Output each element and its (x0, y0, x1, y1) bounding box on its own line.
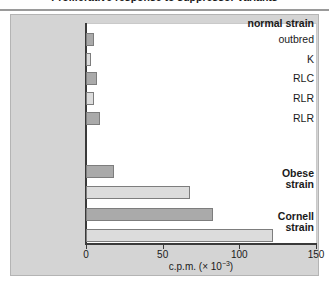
category-label: RLR (293, 113, 314, 124)
category-label: RLC (293, 73, 314, 84)
group-label-normal-strain: normal strain (247, 18, 314, 29)
bar (86, 72, 97, 85)
x-axis-label-close: ) (230, 261, 233, 272)
bar (86, 112, 100, 125)
x-axis-label-main: c.p.m. ( (169, 261, 202, 272)
bar (86, 165, 114, 178)
x-axis-label-mult: × 10 (202, 261, 222, 272)
title-divider (0, 9, 329, 11)
x-tick-label: 150 (296, 249, 329, 260)
group-label-obese-strain-line2: strain (285, 179, 314, 190)
x-tick-label: 50 (143, 249, 183, 260)
bar (86, 229, 273, 242)
bar (86, 53, 91, 66)
chart-title: Proliferative response to suppressor var… (0, 0, 329, 3)
category-label-column (11, 15, 86, 243)
x-tick-label: 100 (219, 249, 259, 260)
group-label-cornell-strain-line2: strain (285, 222, 314, 233)
bar (86, 186, 190, 199)
x-axis-label-exponent: −3 (222, 260, 230, 267)
x-axis-label: c.p.m. (× 10−3) (86, 260, 316, 272)
bar (86, 33, 94, 46)
category-label: outbred (278, 34, 314, 45)
x-axis-line (85, 243, 317, 245)
bar (86, 92, 94, 105)
bar (86, 208, 213, 221)
category-label: K (307, 54, 314, 65)
chart-title-strip: Proliferative response to suppressor var… (0, 0, 329, 9)
category-label: RLR (293, 93, 314, 104)
x-tick-label: 0 (66, 249, 106, 260)
chart-figure: normal strainoutbredKRLCRLRRLRObesestrai… (10, 14, 319, 276)
